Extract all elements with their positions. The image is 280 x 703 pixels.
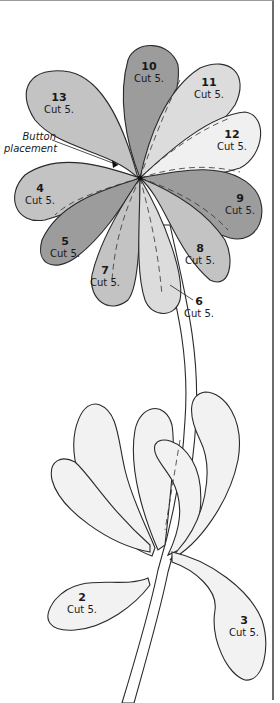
button-placement-note: Button placement bbox=[4, 131, 56, 155]
piece-label-12: 12Cut 5. bbox=[217, 129, 247, 153]
petal-13 bbox=[26, 71, 138, 178]
piece-label-9: 9Cut 5. bbox=[225, 193, 255, 217]
leaf-piece-2 bbox=[48, 578, 150, 630]
piece-label-2: 2Cut 5. bbox=[67, 592, 97, 616]
piece-label-5: 5Cut 5. bbox=[50, 236, 80, 260]
piece-label-11: 11Cut 5. bbox=[194, 77, 224, 101]
button-placement-point bbox=[138, 176, 143, 181]
piece-label-4: 4Cut 5. bbox=[25, 183, 55, 207]
piece-label-8: 8Cut 5. bbox=[185, 243, 215, 267]
piece-label-10: 10Cut 5. bbox=[134, 61, 164, 85]
piece-label-13: 13Cut 5. bbox=[44, 92, 74, 116]
piece-label-3: 3Cut 5. bbox=[229, 615, 259, 639]
piece-label-7: 7Cut 5. bbox=[90, 265, 120, 289]
piece-label-6: 6Cut 5. bbox=[184, 296, 214, 320]
flower-pattern-illustration bbox=[0, 0, 280, 703]
